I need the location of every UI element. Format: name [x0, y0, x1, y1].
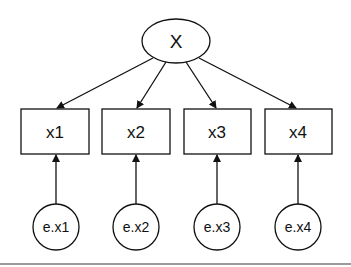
arrow-x-to-x4 [199, 58, 296, 108]
latent-node-x: X [142, 19, 210, 63]
path-diagram: X x1 x2 x3 x4 e.x1 e.x2 e.x3 e.x4 [0, 0, 351, 267]
loading-arrows [57, 58, 296, 108]
bottom-divider [0, 263, 351, 265]
observed-label: x1 [46, 123, 64, 142]
observed-node-x3: x3 [184, 109, 251, 154]
error-node-ex2: e.x2 [113, 204, 159, 250]
observed-label: x4 [289, 123, 307, 142]
error-node-ex4: e.x4 [275, 204, 321, 250]
error-node-ex3: e.x3 [194, 204, 240, 250]
error-label: e.x2 [123, 219, 150, 235]
arrow-x-to-x2 [137, 62, 166, 108]
arrow-x-to-x3 [186, 62, 216, 108]
observed-node-x1: x1 [21, 109, 89, 154]
observed-label: x2 [127, 123, 145, 142]
error-node-ex1: e.x1 [33, 204, 79, 250]
latent-label: X [170, 31, 183, 52]
observed-label: x3 [208, 123, 226, 142]
observed-node-x4: x4 [265, 109, 332, 154]
error-label: e.x3 [204, 219, 231, 235]
observed-node-x2: x2 [102, 109, 170, 154]
error-label: e.x4 [285, 219, 312, 235]
error-arrows [56, 155, 298, 204]
arrow-x-to-x1 [57, 58, 153, 108]
error-label: e.x1 [43, 219, 70, 235]
